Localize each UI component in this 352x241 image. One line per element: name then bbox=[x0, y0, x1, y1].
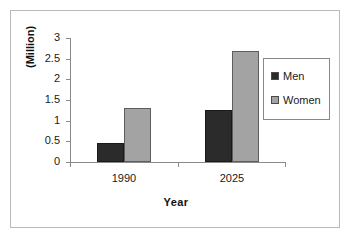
chart-screenshot: 3 2.5 2 1.5 1 0.5 0 1990 2025 Year bbox=[0, 0, 352, 241]
bar-women-1990 bbox=[124, 108, 151, 162]
y-tick-1: 1 bbox=[66, 121, 70, 122]
x-category-label-2025: 2025 bbox=[202, 172, 262, 185]
legend-swatch-women-icon bbox=[271, 96, 279, 104]
bar-women-2025 bbox=[232, 51, 259, 162]
legend-item-women: Women bbox=[271, 94, 321, 106]
bar-men-2025 bbox=[205, 110, 232, 162]
y-tick-label-0: 0 bbox=[54, 155, 60, 168]
y-tick-label-2.5: 2.5 bbox=[45, 52, 60, 65]
plot-area: 3 2.5 2 1.5 1 0.5 0 bbox=[70, 38, 285, 162]
y-tick-1.5: 1.5 bbox=[66, 100, 70, 101]
y-tick-3: 3 bbox=[66, 38, 70, 39]
x-category-label-1990: 1990 bbox=[94, 172, 154, 185]
legend-item-men: Men bbox=[271, 70, 304, 82]
legend-label-women: Women bbox=[283, 94, 321, 106]
x-tick-mid bbox=[178, 162, 179, 167]
y-tick-2.5: 2.5 bbox=[66, 59, 70, 60]
bar-men-1990 bbox=[97, 143, 124, 162]
legend-label-men: Men bbox=[283, 70, 304, 82]
y-tick-label-2: 2 bbox=[54, 72, 60, 85]
y-tick-label-0.5: 0.5 bbox=[45, 134, 60, 147]
legend: Men Women bbox=[263, 58, 330, 120]
x-tick-end bbox=[285, 162, 286, 167]
y-axis-title: (Million) bbox=[24, 26, 36, 68]
y-tick-0.5: 0.5 bbox=[66, 141, 70, 142]
legend-swatch-men-icon bbox=[271, 72, 279, 80]
y-tick-label-1.5: 1.5 bbox=[45, 93, 60, 106]
y-tick-label-3: 3 bbox=[54, 31, 60, 44]
y-tick-label-1: 1 bbox=[54, 114, 60, 127]
y-tick-2: 2 bbox=[66, 79, 70, 80]
x-axis-title: Year bbox=[0, 196, 352, 208]
x-tick-start bbox=[70, 162, 71, 167]
